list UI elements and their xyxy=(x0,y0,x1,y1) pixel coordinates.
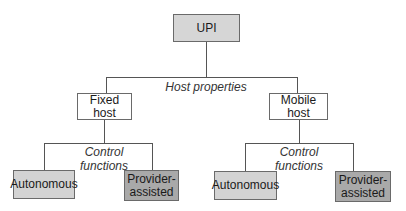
node-fixed-host-label: Fixed host xyxy=(78,94,131,120)
edge-mobile-control-bar xyxy=(245,143,354,144)
edge-label-line-1: Control xyxy=(269,145,329,159)
node-mobile-autonomous-label: Autonomous xyxy=(212,179,279,192)
node-mobile-provider-line-2: assisted xyxy=(341,187,385,200)
node-upi: UPI xyxy=(173,14,240,42)
edge-label-line-1: Control xyxy=(74,145,134,159)
edge-label-host-properties: Host properties xyxy=(146,80,266,94)
node-fixed-autonomous-label: Autonomous xyxy=(10,178,77,191)
node-mobile-provider-line-1: Provider- xyxy=(339,174,388,187)
node-mobile-provider-assisted: Provider- assisted xyxy=(335,171,391,202)
edge-to-mobile-host xyxy=(297,77,298,93)
edge-mobile-stem xyxy=(299,120,300,143)
node-mobile-host: Mobile host xyxy=(269,93,328,120)
edge-label-fixed-control-functions: Control functions xyxy=(74,145,134,173)
edge-fixed-to-autonomous xyxy=(44,143,45,170)
node-fixed-autonomous: Autonomous xyxy=(13,170,75,199)
edge-mobile-to-provider xyxy=(353,143,354,171)
node-fixed-host: Fixed host xyxy=(77,93,132,120)
edge-fixed-stem xyxy=(104,120,105,143)
node-fixed-provider-line-2: assisted xyxy=(129,186,173,199)
node-mobile-host-label: Mobile host xyxy=(270,94,327,120)
edge-mobile-to-autonomous xyxy=(245,143,246,171)
edge-label-mobile-control-functions: Control functions xyxy=(269,145,329,173)
edge-fixed-control-bar xyxy=(44,143,153,144)
node-upi-label: UPI xyxy=(196,22,216,35)
edge-host-properties-bar xyxy=(106,77,298,78)
edge-fixed-to-provider xyxy=(152,143,153,170)
edge-upi-stem xyxy=(206,42,207,77)
edge-label-line-2: functions xyxy=(269,159,329,173)
node-mobile-autonomous: Autonomous xyxy=(214,171,277,200)
edge-to-fixed-host xyxy=(106,77,107,93)
node-fixed-provider-line-1: Provider- xyxy=(127,173,176,186)
node-fixed-provider-assisted: Provider- assisted xyxy=(124,170,179,201)
